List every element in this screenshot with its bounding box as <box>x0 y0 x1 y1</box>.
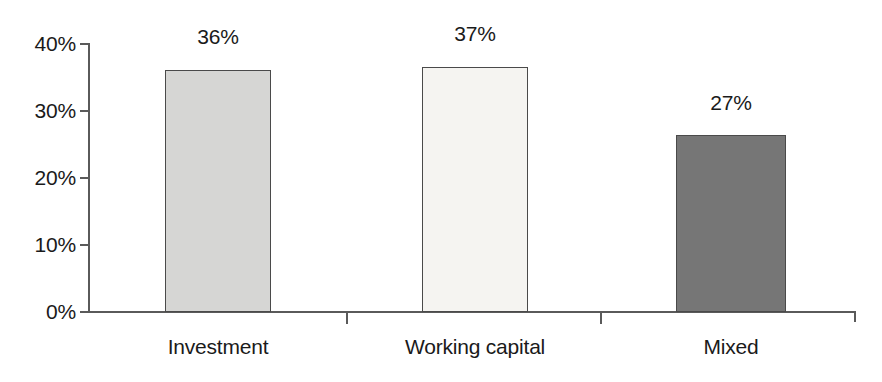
bar-value-label-mixed: 27% <box>671 92 791 113</box>
x-axis-category-mixed: Mixed <box>661 335 801 358</box>
plot-area: 40% 30% 20% 10% 0% 36% 37% 27% Investmen… <box>0 0 882 382</box>
y-tick-mark-30 <box>80 110 89 112</box>
bar-chart: 40% 30% 20% 10% 0% 36% 37% 27% Investmen… <box>0 0 882 382</box>
bar-investment[interactable] <box>165 70 271 312</box>
bar-mixed[interactable] <box>676 135 786 312</box>
y-tick-label-text: 20% <box>4 167 76 188</box>
x-tick-mark-end <box>854 313 856 322</box>
y-tick-mark-40 <box>80 43 89 45</box>
y-tick-mark-10 <box>80 244 89 246</box>
y-tick-label-text: 10% <box>4 234 76 255</box>
bar-working-capital[interactable] <box>422 67 528 312</box>
y-tick-label-text: 0% <box>4 301 76 322</box>
x-axis-category-working-capital: Working capital <box>370 335 580 358</box>
y-tick-mark-20 <box>80 177 89 179</box>
y-tick-label-text: 40% <box>4 33 76 54</box>
y-tick-label-text: 30% <box>4 100 76 121</box>
bar-value-label-investment: 36% <box>158 26 278 47</box>
x-tick-mark-2 <box>600 313 602 324</box>
x-tick-mark-1 <box>346 313 348 324</box>
x-axis-category-investment: Investment <box>138 335 298 358</box>
bar-value-label-working-capital: 37% <box>415 23 535 44</box>
